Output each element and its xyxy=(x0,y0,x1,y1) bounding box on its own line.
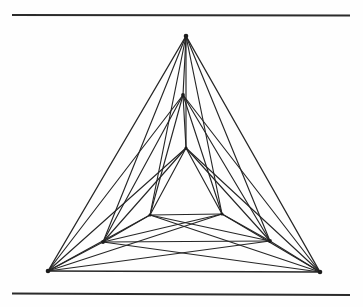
graph-edge-B3-C3 xyxy=(150,214,222,215)
graph-edge-A1-C3 xyxy=(186,36,222,214)
graph-edge-B1-C1 xyxy=(48,271,320,272)
graph-edge-A1-B1 xyxy=(48,36,186,271)
graph-vertex-outer-bottom-left xyxy=(46,269,51,274)
graph-edge-A2-C2 xyxy=(183,95,270,241)
graph-edge-A2-C3 xyxy=(183,95,222,214)
graph-vertex-inner-bottom-right xyxy=(220,212,223,215)
graph-edge-B2-C2 xyxy=(103,241,270,242)
graph-edge-A1-C1 xyxy=(186,36,320,272)
graph-vertex-middle-bottom-right xyxy=(268,239,272,243)
graph-vertex-inner-apex xyxy=(184,146,187,149)
graph-vertex-inner-bottom-left xyxy=(148,213,151,216)
graph-edge-A1-B3 xyxy=(150,36,186,215)
graph-edge-B1-A3 xyxy=(48,148,186,271)
bottom-rule xyxy=(12,294,350,296)
graph-vertex-outer-bottom-right xyxy=(318,270,323,275)
graph-edges xyxy=(48,36,320,272)
graph-vertex-middle-apex xyxy=(181,93,185,97)
nested-triangles-figure xyxy=(0,0,363,307)
graph-edge-A1-C2 xyxy=(186,36,270,241)
top-rule xyxy=(12,15,350,16)
graph-edge-C1-C3 xyxy=(222,214,320,272)
graph-edge-A3-B3 xyxy=(150,148,186,215)
graph-edge-C2-B3 xyxy=(150,215,270,241)
figure-page xyxy=(0,0,363,307)
graph-edge-B1-A2 xyxy=(48,95,183,271)
graph-edge-C1-B2 xyxy=(103,242,320,272)
graph-edge-B1-C3 xyxy=(48,214,222,271)
graph-vertex-outer-apex xyxy=(184,34,189,39)
graph-edge-B1-C2 xyxy=(48,241,270,271)
graph-vertex-middle-bottom-left xyxy=(101,240,105,244)
graph-edge-C1-B3 xyxy=(150,215,320,272)
graph-edge-B2-A3 xyxy=(103,148,186,242)
